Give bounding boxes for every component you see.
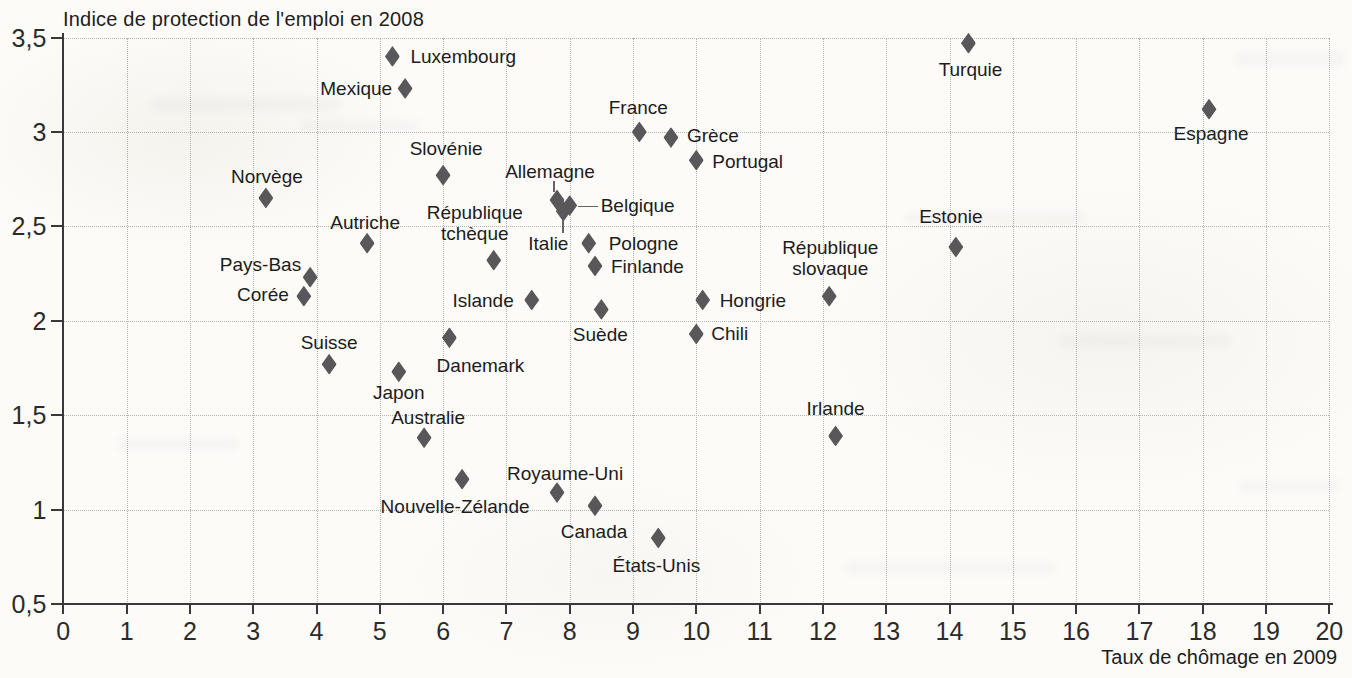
point-label-danemark: Danemark — [437, 354, 525, 375]
data-point-norvege — [258, 188, 273, 209]
point-label-france: France — [609, 96, 668, 117]
x-tick-13 — [885, 605, 887, 614]
point-label-pologne: Pologne — [609, 233, 679, 254]
gridline-x-20 — [1329, 38, 1330, 605]
x-tick-label-9: 9 — [626, 617, 640, 646]
point-label-etats-unis: États-Unis — [612, 554, 700, 575]
x-tick-8 — [569, 605, 571, 614]
x-tick-11 — [759, 605, 761, 614]
data-point-espagne — [1202, 99, 1217, 120]
data-point-danemark — [442, 327, 457, 348]
data-point-slovenie — [436, 165, 451, 186]
plot-area: 012345678910111213141516171819200,511,52… — [0, 0, 1352, 678]
x-tick-14 — [949, 605, 951, 614]
data-point-islande — [524, 289, 539, 310]
data-point-japon — [391, 361, 406, 382]
x-tick-label-0: 0 — [56, 617, 70, 646]
point-label-italie: Italie — [528, 233, 568, 254]
x-tick-label-6: 6 — [436, 617, 450, 646]
x-tick-16 — [1075, 605, 1077, 614]
x-tick-3 — [252, 605, 254, 614]
data-point-republique-tcheque — [486, 250, 501, 271]
point-label-portugal: Portugal — [712, 151, 783, 172]
x-tick-label-5: 5 — [373, 617, 387, 646]
point-label-japon: Japon — [373, 381, 425, 402]
y-tick-label-2,5: 2,5 — [12, 212, 47, 241]
scanned-chart-page: Indice de protection de l'emploi en 2008… — [0, 0, 1352, 678]
y-tick-label-3,5: 3,5 — [12, 23, 47, 52]
scan-artifact — [300, 120, 420, 132]
data-point-grece — [663, 127, 678, 148]
point-label-mexique: Mexique — [320, 78, 392, 99]
x-tick-label-8: 8 — [563, 617, 577, 646]
point-label-finlande: Finlande — [611, 255, 684, 276]
data-point-mexique — [398, 78, 413, 99]
scan-artifact — [118, 438, 238, 450]
x-tick-15 — [1012, 605, 1014, 614]
x-tick-18 — [1202, 605, 1204, 614]
y-tick-1,5 — [51, 414, 62, 416]
data-point-autriche — [360, 233, 375, 254]
x-tick-17 — [1138, 605, 1140, 614]
leader-line-belgique — [578, 206, 598, 208]
scan-artifact — [1060, 335, 1230, 347]
gridline-y-1 — [63, 510, 1329, 511]
x-tick-1 — [126, 605, 128, 614]
point-label-canada: Canada — [561, 520, 628, 541]
data-point-coree — [296, 286, 311, 307]
data-point-pologne — [581, 233, 596, 254]
point-label-irlande: Irlande — [806, 397, 864, 418]
point-label-suede: Suède — [573, 324, 628, 345]
point-label-norvege: Norvège — [231, 166, 303, 187]
y-tick-label-1,5: 1,5 — [12, 401, 47, 430]
x-tick-10 — [695, 605, 697, 614]
x-tick-label-2: 2 — [183, 617, 197, 646]
point-label-pays-bas: Pays-Bas — [220, 254, 301, 275]
data-point-france — [632, 121, 647, 142]
y-tick-0,5 — [51, 603, 62, 605]
point-label-hongrie: Hongrie — [720, 289, 787, 310]
y-tick-label-2: 2 — [32, 306, 46, 335]
x-tick-label-10: 10 — [682, 617, 710, 646]
point-label-autriche: Autriche — [330, 212, 400, 233]
x-tick-7 — [505, 605, 507, 614]
point-label-grece: Grèce — [687, 124, 739, 145]
y-tick-2 — [51, 320, 62, 322]
x-tick-9 — [632, 605, 634, 614]
point-label-chili: Chili — [711, 322, 748, 343]
point-label-luxembourg: Luxembourg — [410, 46, 516, 67]
data-point-chili — [689, 323, 704, 344]
x-axis-title: Taux de chômage en 2009 — [1101, 646, 1337, 669]
x-tick-label-19: 19 — [1252, 617, 1280, 646]
x-tick-label-11: 11 — [747, 617, 773, 646]
point-label-estonie: Estonie — [919, 206, 982, 227]
y-tick-3 — [51, 131, 62, 133]
y-tick-label-3: 3 — [32, 117, 46, 146]
x-tick-2 — [189, 605, 191, 614]
x-tick-0 — [62, 605, 64, 614]
scan-artifact — [1240, 480, 1340, 492]
x-tick-label-3: 3 — [246, 617, 260, 646]
gridline-y-3.5 — [63, 38, 1329, 39]
x-tick-6 — [442, 605, 444, 614]
leader-line-allemagne — [553, 181, 555, 192]
x-tick-label-17: 17 — [1125, 617, 1153, 646]
data-point-pays-bas — [303, 267, 318, 288]
data-point-australie — [417, 427, 432, 448]
x-tick-label-15: 15 — [999, 617, 1027, 646]
y-tick-3,5 — [51, 37, 62, 39]
y-tick-label-0,5: 0,5 — [12, 590, 47, 619]
point-label-suisse: Suisse — [301, 332, 358, 353]
point-label-turquie: Turquie — [939, 59, 1003, 80]
x-tick-label-18: 18 — [1189, 617, 1217, 646]
point-label-nouvelle-zelande: Nouvelle-Zélande — [381, 496, 530, 517]
x-tick-label-14: 14 — [936, 617, 964, 646]
y-tick-1 — [51, 509, 62, 511]
point-label-republique-slovaque: République slovaque — [782, 237, 878, 279]
data-point-canada — [588, 495, 603, 516]
point-label-royaume-uni: Royaume-Uni — [507, 462, 623, 483]
y-axis-line — [62, 33, 64, 607]
x-tick-5 — [379, 605, 381, 614]
x-tick-20 — [1328, 605, 1330, 614]
x-tick-label-13: 13 — [872, 617, 900, 646]
